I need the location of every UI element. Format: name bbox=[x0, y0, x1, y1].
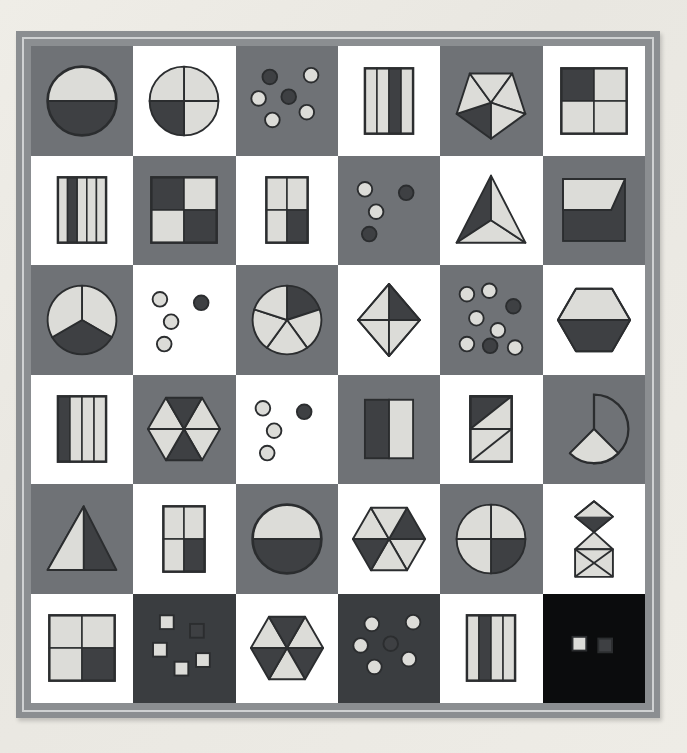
hexagon-sixths-icon bbox=[244, 605, 330, 691]
square-diagonal-split-icon bbox=[551, 167, 637, 253]
shape-cell-r4-c6[interactable] bbox=[543, 375, 645, 485]
shape-cell-r4-c2[interactable] bbox=[133, 375, 235, 485]
hexagon-halves-icon bbox=[551, 277, 637, 363]
shape-cell-r3-c5[interactable] bbox=[440, 265, 542, 375]
shape-cell-r3-c6[interactable] bbox=[543, 265, 645, 375]
rectangle-diagonals-icon bbox=[448, 386, 534, 472]
shape-cell-r1-c3[interactable] bbox=[236, 46, 338, 156]
shape-cell-r5-c5[interactable] bbox=[440, 484, 542, 594]
shape-cell-r2-c4[interactable] bbox=[338, 156, 440, 266]
rectangle-halves-icon bbox=[346, 386, 432, 472]
shape-cell-r6-c5[interactable] bbox=[440, 594, 542, 704]
circle-icon bbox=[448, 496, 534, 582]
shape-cell-r2-c2[interactable] bbox=[133, 156, 235, 266]
rectangle-quads-icon bbox=[141, 496, 227, 582]
triangle-icon bbox=[448, 167, 534, 253]
poster-frame bbox=[16, 31, 660, 718]
shape-cell-r6-c2[interactable] bbox=[133, 594, 235, 704]
circle-set-icon bbox=[448, 277, 534, 363]
shape-cell-r3-c1[interactable] bbox=[31, 265, 133, 375]
shape-cell-r6-c6[interactable] bbox=[543, 594, 645, 704]
circle-sector-icon bbox=[551, 386, 637, 472]
rectangle-quads-icon bbox=[244, 167, 330, 253]
shape-cell-r1-c5[interactable] bbox=[440, 46, 542, 156]
hexagon-sixths-icon bbox=[141, 386, 227, 472]
rectangle-bars-icon bbox=[39, 167, 125, 253]
circle-set-icon bbox=[346, 605, 432, 691]
circle-set-icon bbox=[244, 386, 330, 472]
rhombus-icon bbox=[346, 277, 432, 363]
shape-cell-r2-c3[interactable] bbox=[236, 156, 338, 266]
shape-cell-r4-c3[interactable] bbox=[236, 375, 338, 485]
shape-cell-r2-c6[interactable] bbox=[543, 156, 645, 266]
square-quads-icon bbox=[141, 167, 227, 253]
circle-icon bbox=[141, 58, 227, 144]
shape-cell-r3-c2[interactable] bbox=[133, 265, 235, 375]
hexagon-sixths-icon bbox=[346, 496, 432, 582]
shape-cell-r4-c5[interactable] bbox=[440, 375, 542, 485]
square-set-icon bbox=[141, 605, 227, 691]
shape-cell-r3-c4[interactable] bbox=[338, 265, 440, 375]
shape-cell-r6-c4[interactable] bbox=[338, 594, 440, 704]
shape-cell-r1-c6[interactable] bbox=[543, 46, 645, 156]
rectangle-bars-icon bbox=[448, 605, 534, 691]
circle-icon bbox=[39, 58, 125, 144]
shape-cell-r1-c2[interactable] bbox=[133, 46, 235, 156]
shape-cell-r5-c1[interactable] bbox=[31, 484, 133, 594]
rectangle-bars-icon bbox=[346, 58, 432, 144]
shape-cell-r5-c6[interactable] bbox=[543, 484, 645, 594]
shape-cell-r5-c4[interactable] bbox=[338, 484, 440, 594]
shape-cell-r4-c4[interactable] bbox=[338, 375, 440, 485]
rectangle-bars-icon bbox=[39, 386, 125, 472]
circle-set-icon bbox=[346, 167, 432, 253]
circle-icon bbox=[244, 496, 330, 582]
diamond-stack-icon bbox=[551, 496, 637, 582]
square-set-icon bbox=[551, 605, 637, 691]
shape-cell-r2-c1[interactable] bbox=[31, 156, 133, 266]
circle-icon bbox=[244, 277, 330, 363]
square-quads-icon bbox=[39, 605, 125, 691]
circle-icon bbox=[39, 277, 125, 363]
shape-cell-r1-c1[interactable] bbox=[31, 46, 133, 156]
pentagon-icon bbox=[448, 58, 534, 144]
shape-cell-r1-c4[interactable] bbox=[338, 46, 440, 156]
poster-frame-inner-border bbox=[22, 37, 654, 712]
triangle-half-icon bbox=[39, 496, 125, 582]
shape-cell-r5-c2[interactable] bbox=[133, 484, 235, 594]
shape-cell-r6-c1[interactable] bbox=[31, 594, 133, 704]
shape-grid bbox=[31, 46, 645, 703]
shape-cell-r5-c3[interactable] bbox=[236, 484, 338, 594]
square-quads-icon bbox=[551, 58, 637, 144]
shape-cell-r2-c5[interactable] bbox=[440, 156, 542, 266]
shape-cell-r3-c3[interactable] bbox=[236, 265, 338, 375]
circle-set-icon bbox=[141, 277, 227, 363]
shape-cell-r4-c1[interactable] bbox=[31, 375, 133, 485]
circle-set-icon bbox=[244, 58, 330, 144]
shape-cell-r6-c3[interactable] bbox=[236, 594, 338, 704]
